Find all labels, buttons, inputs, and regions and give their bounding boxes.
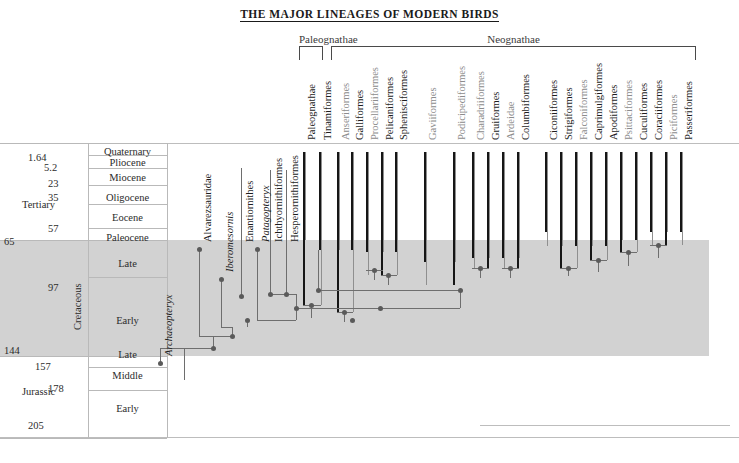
clade-bracket-paleognathae: [299, 46, 323, 60]
timescale-row-rule-10: [88, 390, 167, 391]
timescale-period-rule-144: [0, 356, 88, 357]
range-bar-apodiformes: [605, 152, 607, 246]
timescale-row-rule-9: [88, 367, 167, 368]
timescale-boundary-23: 23: [48, 178, 59, 189]
order-label-apodiformes: Apodiformes: [609, 85, 620, 140]
order-label-strigiformes: Strigiformes: [564, 88, 575, 141]
order-label-piciformes: Piciformes: [669, 95, 680, 141]
range-bar-strigiformes: [560, 152, 562, 268]
timescale-row-rule-0: [88, 143, 167, 144]
timescale-epoch-3: Oligocene: [88, 192, 167, 203]
figure-title-text: THE MAJOR LINEAGES OF MODERN BIRDS: [240, 8, 499, 22]
range-bar-sphenisciformes: [395, 152, 397, 252]
lower-right-rule: [480, 425, 730, 426]
timescale-boundary-157: 157: [35, 361, 51, 372]
clade-join-node-9: [656, 243, 661, 248]
figure-title: THE MAJOR LINEAGES OF MODERN BIRDS: [0, 8, 739, 20]
clade-bracket-neognathae: [331, 46, 696, 60]
timescale-period-rule-205: [0, 438, 88, 439]
timescale-boundary-97: 97: [48, 282, 59, 293]
timescale-period-rule-top: [0, 143, 88, 144]
fossil-label-hesperornithiformes: Hesperornithiformes: [290, 155, 301, 242]
timescale-column-rule-1: [88, 143, 89, 438]
order-label-anseriformes: Anseriformes: [341, 83, 352, 140]
timescale-epoch-7: Early: [88, 315, 167, 326]
fossil-label-archaeopteryx: Archaeopteryx: [164, 295, 175, 356]
range-bar-coraciiformes: [650, 152, 652, 232]
order-label-psittaciformes: Psittaciformes: [624, 80, 635, 140]
timescale-boundary-65: 65: [4, 236, 15, 247]
order-label-coraciiformes: Coraciiformes: [654, 80, 665, 140]
timescale-epoch-1: Pliocene: [88, 157, 167, 168]
range-bar-caprimulgiformes: [590, 152, 592, 260]
timescale-epoch-2: Miocene: [88, 172, 167, 183]
branch-v-0: [199, 249, 200, 336]
range-bar-charadriiformes: [472, 152, 474, 258]
timescale-epoch-8: Late: [88, 349, 167, 360]
timescale-row-rule-3: [88, 185, 167, 186]
timescale-period-1: Cretaceous: [72, 283, 83, 330]
timescale-boundary-205: 205: [28, 420, 44, 431]
timescale-epoch-5: Paleocene: [88, 232, 167, 243]
timescale-epoch-9: Middle: [88, 370, 167, 381]
branch-v-5: [286, 170, 287, 294]
fossil-node-alvarezsauridae: [197, 247, 202, 252]
order-label-tinamiformes: Tinamiformes: [323, 81, 334, 140]
timescale-epoch-10: Early: [88, 403, 167, 414]
range-bar-psittaciformes: [620, 152, 622, 252]
order-label-sphenisciformes: Sphenisciformes: [399, 70, 410, 140]
timescale-epoch-4: Eocene: [88, 212, 167, 223]
timescale-column-rule-2: [167, 143, 168, 438]
timescale-row-rule-11: [88, 438, 167, 439]
range-bar-ardeidae: [502, 152, 504, 258]
cladogram-figure: THE MAJOR LINEAGES OF MODERN BIRDS Paleo…: [0, 0, 739, 463]
clade-caption-paleognathae: Paleognathae: [299, 33, 323, 45]
order-label-cuculiformes: Cuculiformes: [639, 83, 650, 140]
timescale-boundary-35: 35: [48, 192, 59, 203]
range-bar-piciformes: [665, 152, 667, 245]
range-bar-anseriformes: [337, 152, 339, 312]
branch-v-12: [184, 348, 185, 380]
timescale-row-rule-5: [88, 228, 167, 229]
order-label-ciconiiformes: Ciconiiformes: [549, 80, 560, 140]
fossil-node-patagopteryx: [255, 247, 260, 252]
timescale-boundary-5.2: 5.2: [44, 162, 57, 173]
order-label-galliformes: Galliformes: [355, 90, 366, 140]
range-bar-gaviiformes: [424, 152, 426, 262]
order-label-charadriiformes: Charadriiformes: [476, 71, 487, 140]
fossil-label-enantiornithes: Enantiornithes: [245, 181, 256, 242]
order-label-passeriformes: Passeriformes: [684, 81, 695, 140]
range-bar-procellariiformes: [366, 152, 368, 252]
timescale-epoch-0: Quaternary: [88, 146, 167, 157]
range-bar-tinamiformes: [319, 152, 321, 250]
order-label-ardeidae: Ardeidae: [506, 102, 517, 140]
branch-v-20: [318, 250, 319, 290]
fossil-label-patagopteryx: Patagopteryx: [261, 185, 272, 242]
order-label-paleognathae: Paleognathae: [307, 84, 318, 140]
branch-v-2: [241, 168, 242, 296]
fossil-node-hesperornithiformes: [284, 292, 289, 297]
range-bar-podicipediformes: [453, 152, 455, 285]
timescale-row-rule-2: [88, 168, 167, 169]
range-bar-gruiformes: [487, 152, 489, 268]
order-label-procellariiformes: Procellariiformes: [370, 67, 381, 140]
branch-h-19: [318, 290, 460, 291]
timescale-epoch-6: Late: [88, 258, 167, 269]
branch-h-8: [221, 327, 232, 328]
timescale-boundary-57: 57: [48, 223, 59, 234]
range-bar-ciconiiformes: [545, 152, 547, 232]
range-bar-paleognathae: [303, 152, 305, 305]
clade-join-node-6: [566, 266, 571, 271]
branch-h-13: [257, 320, 296, 321]
order-label-columbiformes: Columbiformes: [521, 74, 532, 140]
timescale-boundary-178: 178: [48, 383, 64, 394]
clade-caption-neognathae: Neognathae: [331, 33, 696, 45]
fossil-label-ichthyornithiformes: Ichthyornithiformes: [274, 158, 285, 242]
order-label-falconiformes: Falconiformes: [579, 79, 590, 140]
fossil-node-ichthyornithiformes: [268, 292, 273, 297]
fossil-node-enantiornithes: [239, 294, 244, 299]
fossil-label-alvarezsauridae: Alvarezsauridae: [203, 174, 214, 242]
range-bar-falconiformes: [575, 152, 577, 246]
order-label-caprimulgiformes: Caprimulgiformes: [594, 63, 605, 140]
branch-h-6: [199, 336, 232, 337]
